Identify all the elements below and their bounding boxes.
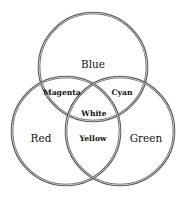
label-white: White <box>80 109 106 118</box>
label-green: Green <box>130 132 163 144</box>
venn-diagram: Blue Magenta Cyan White Red Yellow Green <box>0 0 186 207</box>
label-yellow: Yellow <box>79 134 107 143</box>
label-red: Red <box>31 132 52 144</box>
label-magenta: Magenta <box>43 88 80 97</box>
label-blue: Blue <box>81 58 105 70</box>
label-cyan: Cyan <box>112 88 133 97</box>
